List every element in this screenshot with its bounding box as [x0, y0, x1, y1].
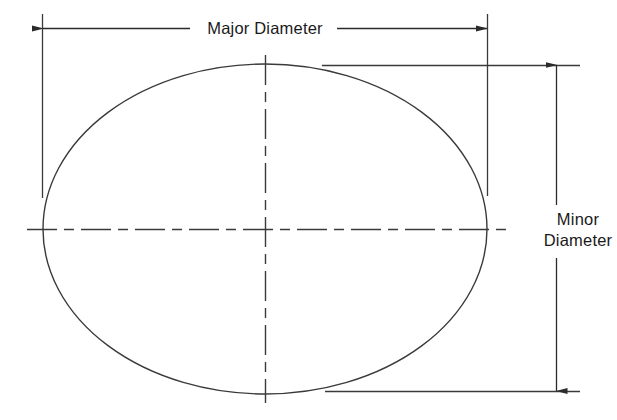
minor-diameter-label-line1: Minor	[557, 210, 600, 228]
minor-diameter-label-line2: Diameter	[544, 231, 613, 249]
major-diameter-label: Major Diameter	[207, 19, 323, 37]
technical-drawing-canvas: Major Diameter Minor Diameter	[0, 0, 617, 420]
ellipse-dimension-diagram: Major Diameter Minor Diameter	[0, 0, 617, 420]
